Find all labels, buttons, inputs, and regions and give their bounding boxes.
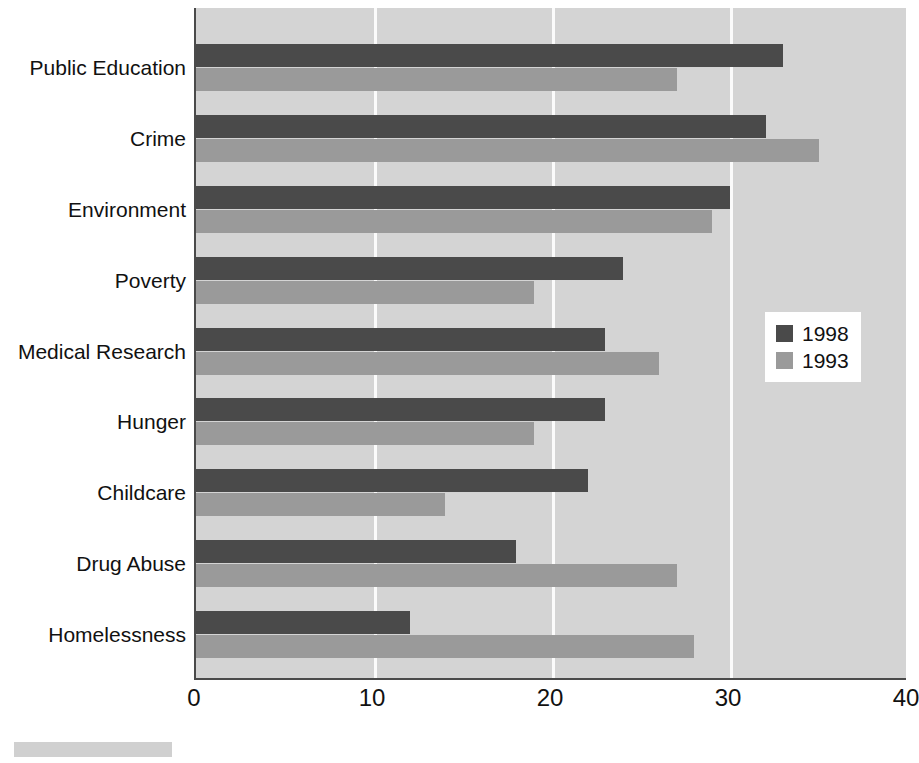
- category-label: Drug Abuse: [76, 553, 186, 575]
- x-tick-label-30: 30: [715, 684, 742, 712]
- bar-group: [196, 611, 906, 658]
- category-label: Public Education: [30, 57, 186, 79]
- bar-1998: [196, 257, 623, 280]
- bar-1998: [196, 328, 605, 351]
- x-tick-label-0: 0: [187, 684, 200, 712]
- bar-1993: [196, 281, 534, 304]
- bar-1993: [196, 68, 677, 91]
- bar-1993: [196, 352, 659, 375]
- bar-group: [196, 115, 906, 162]
- bar-1998: [196, 540, 516, 563]
- bar-1998: [196, 611, 410, 634]
- legend-label-1998: 1998: [802, 323, 849, 344]
- category-label: Medical Research: [18, 341, 186, 363]
- legend-item-1993: 1993: [776, 350, 861, 371]
- category-label: Environment: [68, 199, 186, 221]
- bar-group: [196, 186, 906, 233]
- bar-group: [196, 257, 906, 304]
- bar-group: [196, 540, 906, 587]
- bar-group: [196, 44, 906, 91]
- bar-1993: [196, 564, 677, 587]
- bar-1998: [196, 469, 588, 492]
- bar-1993: [196, 422, 534, 445]
- caption-strip: [14, 742, 172, 757]
- bar-1998: [196, 44, 783, 67]
- x-tick-label-40: 40: [893, 684, 919, 712]
- bar-group: [196, 469, 906, 516]
- bar-group: [196, 398, 906, 445]
- legend-swatch-icon-1993: [776, 352, 793, 369]
- bar-1993: [196, 635, 694, 658]
- legend-label-1993: 1993: [802, 350, 849, 371]
- x-tick-label-20: 20: [537, 684, 564, 712]
- legend-swatch-icon-1998: [776, 325, 793, 342]
- category-label: Homelessness: [48, 624, 186, 646]
- category-label: Crime: [130, 128, 186, 150]
- bar-1998: [196, 398, 605, 421]
- x-tick-label-10: 10: [359, 684, 386, 712]
- bar-1993: [196, 210, 712, 233]
- legend-item-1998: 1998: [776, 323, 861, 344]
- chart-legend: 1998 1993: [765, 312, 861, 382]
- bar-1998: [196, 115, 766, 138]
- category-label: Poverty: [115, 270, 186, 292]
- value-axis-labels: 010203040: [194, 684, 906, 724]
- bar-1993: [196, 139, 819, 162]
- bar-1993: [196, 493, 445, 516]
- category-axis-labels: Public EducationCrimeEnvironmentPovertyM…: [0, 8, 186, 680]
- category-label: Childcare: [97, 482, 186, 504]
- bar-1998: [196, 186, 730, 209]
- category-label: Hunger: [117, 411, 186, 433]
